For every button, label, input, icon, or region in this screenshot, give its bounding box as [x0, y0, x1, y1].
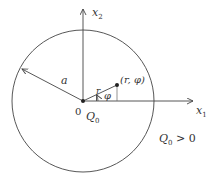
radius-label: a [61, 74, 68, 87]
origin-label: 0 [75, 106, 81, 117]
condition-label: Q0 > 0 [159, 132, 196, 147]
r-label: r [96, 86, 101, 96]
radius-arrow [22, 69, 83, 101]
phi-label: φ [104, 90, 111, 101]
x1-axis-label: x1 [196, 104, 207, 119]
polar-coordinate-diagram: x2 x1 a (r, φ) r φ 0 Q0 Q0 > 0 [0, 0, 214, 183]
x2-axis-label: x2 [92, 6, 103, 21]
polar-point [115, 83, 119, 87]
origin-point [81, 99, 85, 103]
center-charge-label: Q0 [86, 110, 100, 125]
point-label: (r, φ) [120, 74, 145, 85]
